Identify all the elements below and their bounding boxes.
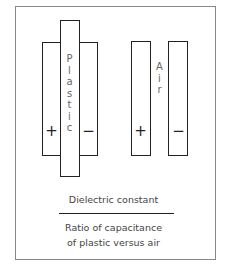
formula-denominator-line1: Ratio of capacitance — [0, 222, 227, 233]
label-letter: l — [68, 65, 71, 77]
label-letter: a — [66, 76, 72, 88]
label-letter: s — [67, 88, 72, 100]
label-letter: i — [68, 111, 71, 123]
negative-sign: − — [169, 124, 188, 139]
formula-numerator: Dielectric constant — [0, 194, 227, 205]
plastic-label: Plastic — [60, 53, 79, 134]
label-letter: A — [156, 61, 163, 73]
label-letter: i — [158, 73, 161, 85]
label-letter: t — [68, 99, 72, 111]
positive-sign: + — [131, 124, 150, 139]
formula-denominator-line2: of plastic versus air — [0, 237, 227, 248]
air-label: Air — [150, 61, 169, 96]
label-letter: P — [66, 53, 72, 65]
negative-sign: − — [79, 124, 98, 139]
label-letter: c — [67, 122, 73, 134]
fraction-line — [59, 213, 174, 214]
label-letter: r — [157, 84, 161, 96]
positive-sign: + — [42, 124, 61, 139]
